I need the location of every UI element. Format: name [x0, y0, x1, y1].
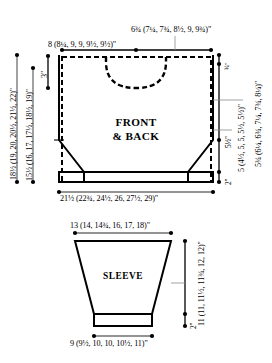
front-back-piece-label-line2: & BACK: [96, 130, 176, 142]
cuff-ribbing-band: [94, 314, 152, 326]
hem-ribbing-band: [59, 172, 213, 182]
rule-dot: [217, 180, 221, 184]
label-neck-ribbing: ¾": [224, 63, 231, 70]
sleeve-piece-label: SLEEVE: [83, 271, 163, 281]
label-total-length: 18½ (19, 20, 20½, 21½, 22)": [10, 88, 18, 180]
label-length-to-underarm: 15½ (16, 17, 17½, 18½, 19)": [26, 89, 34, 181]
front-back-right-edge: [188, 55, 213, 182]
rule-dot: [217, 53, 221, 57]
rule-dot: [15, 180, 19, 184]
label-neck-depth: 3": [41, 71, 49, 78]
label-cuff-width: 9 (9½, 10, 10, 10½, 11)": [70, 340, 148, 348]
rule-dot: [217, 170, 221, 174]
label-taper-height: 5½": [225, 136, 232, 148]
label-bottom-width: 21½ (22¾, 24½, 26, 27½, 29)": [60, 195, 158, 203]
rule-dot: [209, 48, 213, 52]
rule-dot: [31, 66, 35, 70]
rule-dot: [73, 231, 77, 235]
neckline-scoop: [106, 57, 166, 88]
rule-dot: [92, 334, 96, 338]
rule-dot: [183, 239, 187, 243]
label-hem-ribbing: 2": [225, 178, 232, 185]
rule-dot: [46, 86, 50, 90]
label-upper-arm: 13 (14, 14¾, 16, 17, 18)": [70, 222, 150, 230]
front-back-piece-label-line1: FRONT: [96, 116, 176, 128]
label-armhole-depth: 5¾ (6¼, 6¾, 7¼, 7¾, 8¼)": [255, 81, 263, 167]
rule-dot: [183, 324, 187, 328]
label-cuff-ribbing: 2": [190, 322, 197, 329]
label-shoulder-width: 8 (8¼, 9, 9, 9½, 9½)": [48, 41, 116, 49]
rule-dot: [169, 231, 173, 235]
rule-dot: [15, 53, 19, 57]
rule-dot: [150, 334, 154, 338]
label-shoulder-to-shoulder-top: 6¾ (7¼, 7¾, 8½, 9, 9¾)": [131, 26, 211, 34]
label-side-seam: 5 (4½, 5, 5, 5½, 5½)": [238, 104, 246, 172]
rule-dot: [211, 190, 215, 194]
label-sleeve-length: 11 (11, 11½, 11¾, 12, 12)": [198, 241, 206, 326]
rule-dot: [46, 54, 50, 58]
rule-dot: [183, 312, 187, 316]
